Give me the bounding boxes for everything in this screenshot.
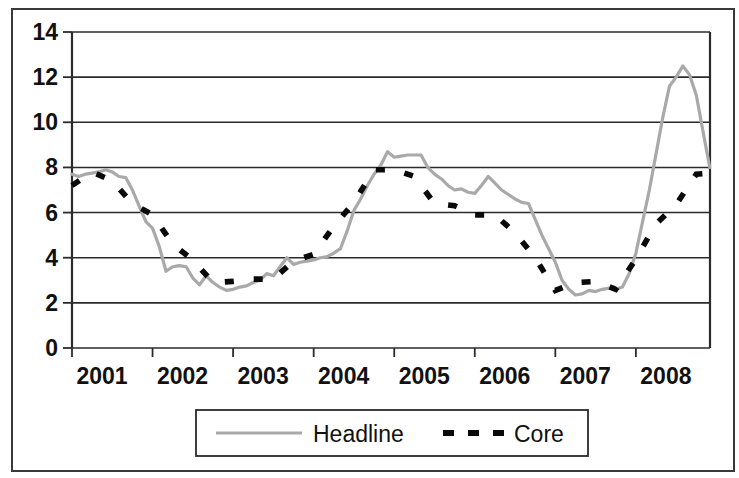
series-line-headline (72, 66, 710, 295)
y-tick-label: 12 (32, 64, 58, 90)
y-tick-label: 14 (32, 19, 58, 45)
legend-label-headline: Headline (313, 421, 404, 447)
y-tick-label: 10 (32, 109, 58, 135)
x-tick-label: 2008 (640, 363, 691, 389)
y-tick-label: 6 (45, 200, 58, 226)
x-tick-label: 2007 (560, 363, 611, 389)
x-axis-tick-labels: 20012002200320042005200620072008 (76, 363, 691, 389)
y-tick-label: 2 (45, 290, 58, 316)
x-tick-label: 2003 (238, 363, 289, 389)
x-tick-label: 2002 (157, 363, 208, 389)
x-tick-label: 2006 (479, 363, 530, 389)
y-tick-label: 8 (45, 154, 58, 180)
legend-label-core: Core (514, 421, 564, 447)
x-axis-tickmarks (72, 348, 636, 357)
x-tick-label: 2004 (318, 363, 369, 389)
y-axis-tick-labels: 02468101214 (32, 19, 58, 361)
y-tick-label: 0 (45, 335, 58, 361)
series-line-core (72, 170, 710, 291)
gridlines (72, 32, 710, 348)
y-tick-label: 4 (45, 245, 58, 271)
x-tick-label: 2005 (399, 363, 450, 389)
x-tick-label: 2001 (76, 363, 127, 389)
y-axis-tickmarks (63, 32, 72, 348)
chart-svg: 02468101214 2001200220032004200520062007… (0, 0, 739, 478)
chart-figure: 02468101214 2001200220032004200520062007… (0, 0, 739, 478)
chart-legend: Headline Core (196, 410, 588, 456)
line-chart: 02468101214 2001200220032004200520062007… (0, 0, 739, 478)
